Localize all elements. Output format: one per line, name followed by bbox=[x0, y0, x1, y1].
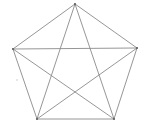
diagonal-edge-right-to-bottom-left bbox=[37, 48, 137, 119]
side-edge-left-to-top bbox=[13, 4, 75, 49]
vertex-bottom-left bbox=[36, 118, 38, 120]
stray-dot-mark bbox=[16, 79, 18, 81]
vertex-top bbox=[74, 3, 76, 5]
side-edge-top-to-right bbox=[75, 4, 137, 48]
edge-group bbox=[13, 4, 137, 119]
side-edge-right-to-bottom-right bbox=[114, 48, 137, 119]
vertex-left bbox=[12, 48, 14, 50]
pentagon-diagram bbox=[0, 0, 148, 125]
stray-mark-group bbox=[16, 79, 18, 81]
side-edge-bottom-left-to-left bbox=[13, 49, 37, 119]
diagonal-edge-top-to-bottom-right bbox=[75, 4, 114, 119]
vertex-right bbox=[136, 47, 138, 49]
diagonal-edge-right-to-left bbox=[13, 48, 137, 49]
diagonal-edge-top-to-bottom-left bbox=[37, 4, 75, 119]
vertex-bottom-right bbox=[113, 118, 115, 120]
diagonal-edge-bottom-right-to-left bbox=[13, 49, 114, 119]
